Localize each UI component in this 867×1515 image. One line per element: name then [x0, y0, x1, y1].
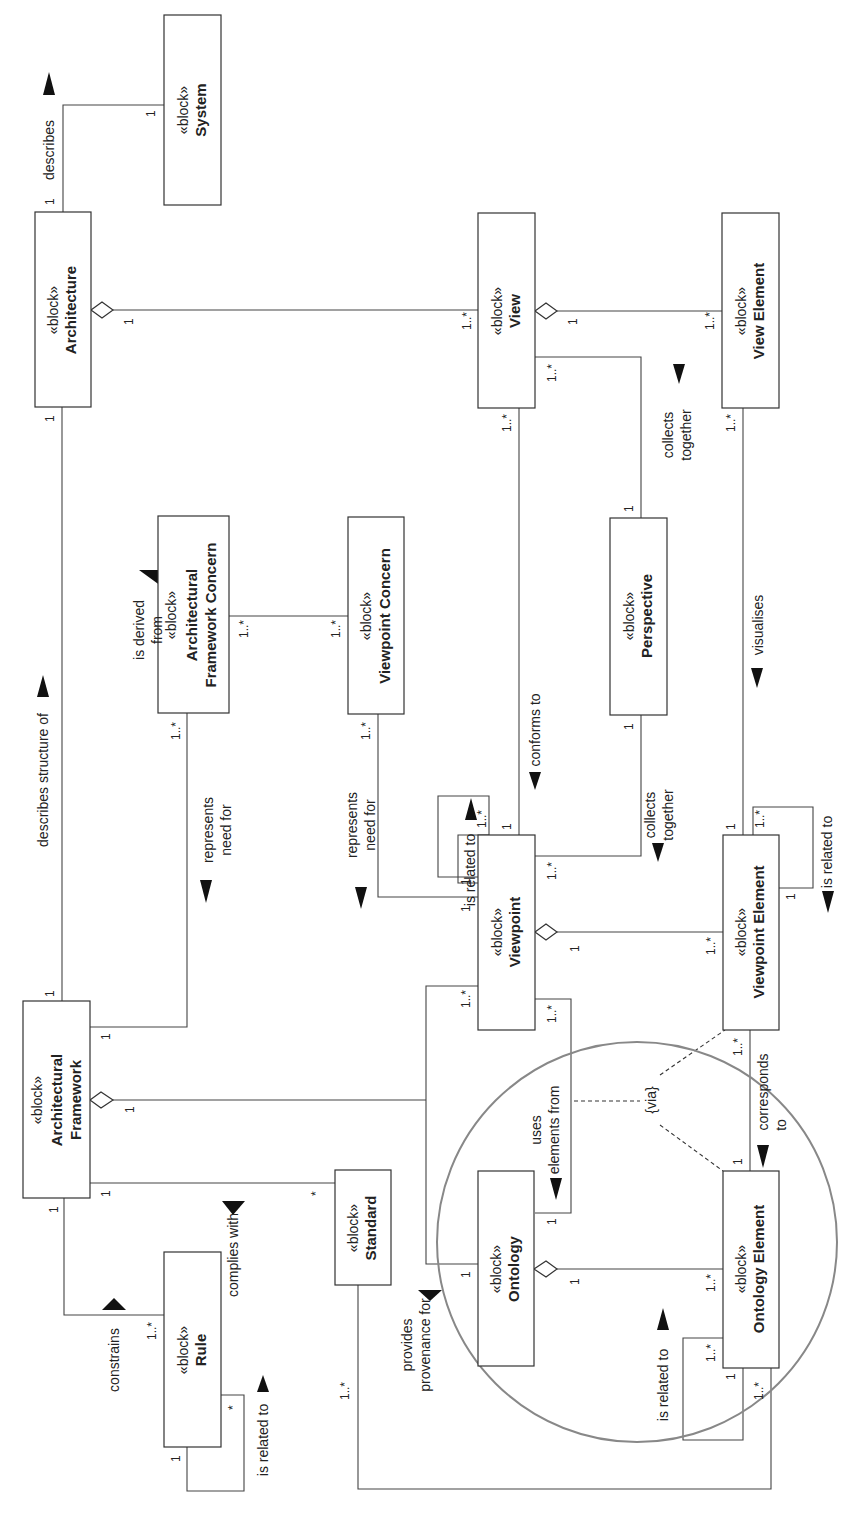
label-is-derived-from-2: from — [149, 616, 165, 644]
block-ontology-element[interactable]: «block» Ontology Element — [723, 1171, 779, 1368]
label-corresponds-to-2: to — [773, 1119, 789, 1131]
aggregation-diamond-icon — [91, 302, 113, 318]
block-architectural-framework-concern[interactable]: «block» Architectural Framework Concern — [158, 516, 229, 713]
multiplicity: 1 — [545, 1218, 559, 1225]
block-standard[interactable]: «block» Standard — [335, 1170, 391, 1285]
block-name: Architectural — [48, 1054, 65, 1147]
direction-arrow-icon — [102, 1298, 126, 1310]
aggregation-diamond-icon — [535, 303, 557, 319]
block-stereotype: «block» — [733, 287, 749, 335]
block-perspective[interactable]: «block» Perspective — [610, 518, 667, 715]
multiplicity: 1..* — [704, 937, 718, 955]
block-stereotype: «block» — [175, 1326, 191, 1374]
multiplicity: 1..* — [475, 810, 489, 828]
aggregation-diamond-icon — [90, 1092, 113, 1108]
aggregation-diamond-icon — [534, 1261, 557, 1277]
label-oe-is-related-to: is related to — [655, 1349, 671, 1422]
multiplicity: 1..* — [704, 1274, 718, 1292]
label-uses-elements-from: uses — [528, 1115, 544, 1145]
multiplicity: 1..* — [459, 990, 473, 1008]
block-name: Architectural — [183, 569, 200, 662]
multiplicity: 1..* — [753, 810, 767, 828]
assoc-af-represents-need-for — [90, 713, 187, 1027]
block-architectural-framework[interactable]: «block» Architectural Framework — [23, 1001, 90, 1198]
block-name: Viewpoint — [506, 897, 523, 968]
label-af-represents-need-for-2: need for — [218, 804, 234, 856]
block-stereotype: «block» — [29, 1076, 45, 1124]
label-complies-with: complies with — [225, 1213, 241, 1297]
multiplicity: 1 — [43, 990, 57, 997]
multiplicity: 1..* — [704, 1344, 718, 1362]
label-visualises: visualises — [750, 595, 766, 656]
label-via: {via} — [643, 1086, 659, 1114]
multiplicity: 1..* — [724, 414, 738, 432]
label-vpe-is-related-to: is related to — [819, 816, 835, 889]
block-name: System — [192, 83, 209, 136]
multiplicity: 1 — [622, 505, 636, 512]
block-system[interactable]: «block» System — [164, 15, 221, 205]
block-rule[interactable]: «block» Rule — [164, 1252, 221, 1447]
label-vp-is-related-to: is related to — [462, 834, 478, 907]
block-view[interactable]: «block» View — [478, 213, 535, 408]
block-name: Framework — [67, 1059, 84, 1140]
direction-arrow-icon — [657, 1308, 669, 1330]
block-view-element[interactable]: «block» View Element — [722, 213, 779, 408]
multiplicity: 1 — [459, 905, 473, 912]
multiplicity: 1 — [566, 318, 580, 325]
block-stereotype: «block» — [345, 1204, 361, 1252]
block-stereotype: «block» — [488, 1245, 504, 1293]
direction-arrow-icon — [37, 675, 49, 697]
assoc-af-vp-ontology — [426, 986, 478, 1264]
block-name: Ontology — [505, 1235, 522, 1301]
block-ontology[interactable]: «block» Ontology — [478, 1171, 534, 1366]
multiplicity: 1..* — [545, 1005, 559, 1023]
direction-arrow-icon — [751, 668, 763, 688]
via-dash-2 — [660, 1030, 725, 1075]
block-stereotype: «block» — [733, 908, 749, 956]
block-name: Architecture — [62, 266, 79, 354]
via-dash-3 — [660, 1125, 723, 1171]
direction-arrow-icon — [673, 364, 685, 384]
label-describes-structure-of: describes structure of — [35, 713, 51, 847]
multiplicity: 1 — [99, 1033, 113, 1040]
label-provides-provenance-for: provides — [399, 1319, 415, 1372]
block-stereotype: «block» — [489, 287, 505, 335]
multiplicity: 1..* — [545, 364, 559, 382]
direction-arrow-icon — [222, 1201, 245, 1215]
multiplicity: 1 — [459, 878, 473, 885]
block-viewpoint[interactable]: «block» Viewpoint — [478, 835, 535, 1030]
label-is-derived-from: is derived — [131, 600, 147, 660]
multiplicity: 1 — [784, 893, 798, 900]
block-stereotype: «block» — [175, 86, 191, 134]
multiplicity: 1..* — [752, 1382, 766, 1400]
multiplicity: 1 — [123, 1106, 137, 1113]
label-corresponds-to: corresponds — [755, 1053, 771, 1130]
assoc-constrains — [64, 1198, 164, 1315]
multiplicity: 1..* — [169, 722, 183, 740]
multiplicity: 1 — [144, 110, 158, 117]
block-viewpoint-concern[interactable]: «block» Viewpoint Concern — [348, 517, 404, 714]
multiplicity: 1..* — [338, 1382, 352, 1400]
multiplicity: 1 — [622, 723, 636, 730]
label-describes: describes — [41, 120, 57, 180]
block-stereotype: «block» — [733, 1245, 749, 1293]
multiplicity: 1 — [47, 1206, 61, 1213]
block-architecture[interactable]: «block» Architecture — [35, 212, 91, 407]
multiplicity: 1..* — [703, 312, 717, 330]
label-collects-together-vp-2: together — [660, 789, 676, 841]
multiplicity: * — [226, 1405, 240, 1410]
multiplicity: 1..* — [329, 620, 343, 638]
label-rule-is-related-to: is related to — [255, 1404, 271, 1477]
assoc-perspective-viewpoint — [535, 715, 641, 856]
uml-block-diagram: «block» System «block» Architecture «blo… — [0, 0, 867, 1515]
block-name: Ontology Element — [750, 1205, 767, 1333]
multiplicity: 1 — [731, 1158, 745, 1165]
multiplicity: 1..* — [545, 862, 559, 880]
block-viewpoint-element[interactable]: «block» Viewpoint Element — [723, 835, 779, 1030]
block-name: View — [506, 294, 523, 328]
multiplicity: 1 — [724, 1373, 738, 1380]
aggregation-diamond-icon — [535, 924, 557, 940]
label-collects-together-view: collects — [660, 412, 676, 459]
block-name: View Element — [750, 263, 767, 359]
multiplicity: 1..* — [500, 414, 514, 432]
